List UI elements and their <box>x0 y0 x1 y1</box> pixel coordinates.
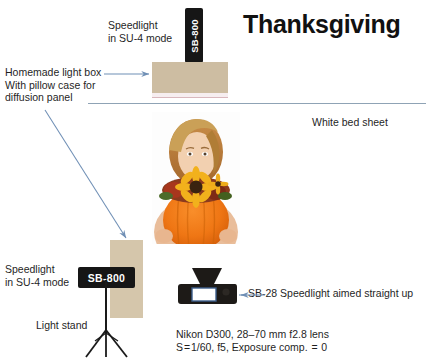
light-stand-leg-right <box>106 330 127 357</box>
lighting-diagram-canvas: Thanksgiving Speedlight in SU-4 mode SB-… <box>0 0 426 359</box>
diagram-overlay <box>0 0 426 359</box>
light-stand-leg-left <box>86 330 106 357</box>
arrow-diffusion-panel <box>45 110 126 238</box>
